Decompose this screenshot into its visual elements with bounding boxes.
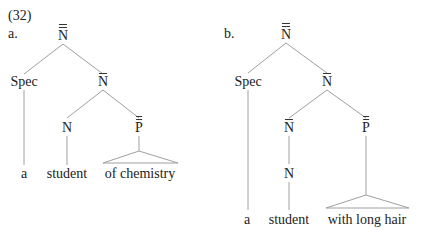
node-root-n-double-bar: N — [281, 27, 291, 43]
node-n: N — [62, 120, 72, 136]
word-student: student — [269, 212, 309, 228]
node-spec: Spec — [10, 74, 37, 90]
tree-label: b. — [224, 26, 235, 42]
node-inner-n-bar: N — [284, 120, 294, 136]
example-number: (32) — [8, 8, 31, 24]
word-a: a — [21, 166, 27, 182]
node-spec: Spec — [234, 74, 261, 90]
word-a: a — [244, 212, 250, 228]
word-of-chemistry: of chemistry — [105, 166, 175, 182]
node-root-n-double-bar: N — [58, 28, 68, 44]
word-with-long-hair: with long hair — [328, 212, 407, 228]
node-n-bar: N — [322, 74, 332, 90]
node-n: N — [284, 166, 294, 182]
tree-label: a. — [8, 26, 18, 42]
node-p-double-bar: P — [135, 120, 143, 136]
node-n-bar: N — [98, 74, 108, 90]
node-p-double-bar: P — [362, 120, 370, 136]
word-student: student — [47, 166, 87, 182]
